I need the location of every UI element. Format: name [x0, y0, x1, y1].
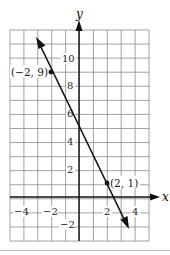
x-tick: 2	[104, 206, 110, 217]
y-axis-label: y	[75, 7, 83, 21]
x-tick: −2	[43, 206, 58, 217]
point-label: (−2, 9)	[11, 66, 48, 78]
y-tick: 10	[62, 53, 75, 64]
x-axis-label: x	[162, 190, 169, 204]
line-graph	[36, 37, 129, 229]
coordinate-graph: x y −4 −2 2 4 10 8 6 4 2 −2 (−2, 9)	[0, 0, 170, 255]
x-tick: −4	[14, 206, 29, 217]
divider	[0, 250, 170, 251]
x-axis: x	[10, 190, 169, 204]
y-tick: 8	[67, 80, 73, 91]
y-tick: 4	[67, 136, 73, 147]
point-label: (2, 1)	[110, 177, 138, 189]
point-a: (−2, 9)	[10, 65, 53, 78]
x-tick: 4	[132, 206, 138, 217]
y-tick: 2	[67, 164, 73, 175]
y-tick: −2	[60, 219, 75, 230]
point-b: (2, 1)	[105, 176, 140, 189]
